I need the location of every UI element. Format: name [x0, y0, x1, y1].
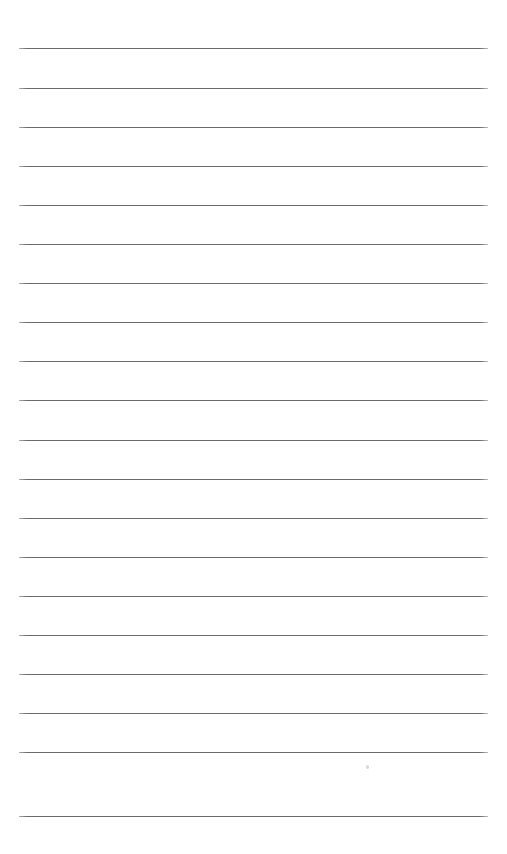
writing-row-1[interactable]: [19, 0, 488, 48]
writing-row-14[interactable]: [19, 518, 488, 557]
writing-row-4[interactable]: [19, 127, 488, 166]
writing-row-9[interactable]: [19, 322, 488, 361]
lined-paper-page: [0, 0, 507, 854]
writing-row-7[interactable]: [19, 244, 488, 283]
writing-row-2[interactable]: [19, 48, 488, 88]
writing-row-20[interactable]: [19, 752, 488, 816]
writing-row-10[interactable]: [19, 361, 488, 400]
rule-line-20: [19, 816, 488, 817]
writing-row-13[interactable]: [19, 479, 488, 518]
writing-row-3[interactable]: [19, 88, 488, 127]
writing-row-5[interactable]: [19, 166, 488, 205]
writing-row-16[interactable]: [19, 596, 488, 635]
writing-row-8[interactable]: [19, 283, 488, 322]
writing-row-11[interactable]: [19, 400, 488, 440]
writing-row-6[interactable]: [19, 205, 488, 244]
writing-row-12[interactable]: [19, 440, 488, 479]
writing-row-15[interactable]: [19, 557, 488, 596]
writing-row-19[interactable]: [19, 713, 488, 752]
faint-pencil-dot: [366, 765, 369, 769]
writing-row-18[interactable]: [19, 674, 488, 713]
writing-row-17[interactable]: [19, 635, 488, 674]
